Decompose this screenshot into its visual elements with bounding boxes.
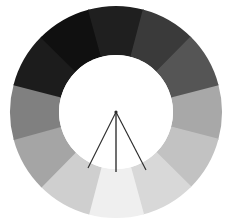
grayscale-donut-chart <box>0 0 232 223</box>
donut-wheel-svg <box>0 0 232 223</box>
pointer-apex-dot <box>114 110 117 113</box>
